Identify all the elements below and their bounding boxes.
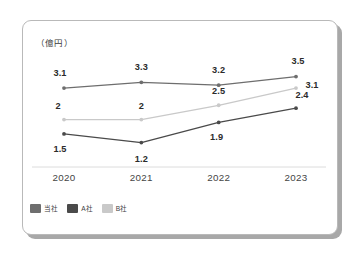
data-label-company-a: 1.5 bbox=[53, 144, 66, 154]
legend-swatch-icon bbox=[102, 204, 113, 213]
data-label-company-a: 1.2 bbox=[135, 154, 148, 164]
data-label-our-company: 3.5 bbox=[291, 56, 304, 66]
data-point bbox=[294, 75, 298, 79]
data-label-company-b: 2 bbox=[139, 101, 144, 111]
chart-screenshot: （億円） 3.13.33.23.51.51.21.92.4222.53.1 20… bbox=[0, 0, 359, 261]
data-label-company-b: 2 bbox=[55, 101, 60, 111]
data-point bbox=[62, 132, 66, 136]
legend-swatch-icon bbox=[30, 204, 41, 213]
data-label-company-a: 1.9 bbox=[210, 132, 223, 142]
data-point bbox=[139, 118, 143, 122]
x-tick-label: 2022 bbox=[207, 172, 230, 183]
legend-item-company-a[interactable]: A社 bbox=[67, 203, 93, 213]
series-line bbox=[64, 77, 296, 88]
data-label-company-a: 2.4 bbox=[295, 90, 308, 100]
series-line bbox=[64, 108, 296, 142]
data-label-our-company: 3.2 bbox=[212, 65, 225, 75]
legend-swatch-icon bbox=[67, 204, 78, 213]
data-point bbox=[62, 86, 66, 90]
chart-legend: 当社A社B社 bbox=[30, 203, 127, 213]
data-label-company-b: 3.1 bbox=[305, 80, 318, 90]
series-our-company bbox=[62, 75, 298, 90]
legend-label: A社 bbox=[81, 203, 93, 213]
data-label-our-company: 3.3 bbox=[135, 62, 148, 72]
legend-label: B社 bbox=[116, 203, 128, 213]
data-point bbox=[294, 106, 298, 110]
data-point bbox=[139, 141, 143, 145]
x-tick-label: 2020 bbox=[53, 172, 76, 183]
legend-item-company-b[interactable]: B社 bbox=[102, 203, 128, 213]
series-company-b bbox=[62, 86, 298, 121]
data-point bbox=[217, 103, 221, 107]
data-point bbox=[217, 121, 221, 125]
series-layer bbox=[62, 75, 298, 145]
x-tick-label: 2021 bbox=[130, 172, 153, 183]
data-point bbox=[62, 118, 66, 122]
data-label-company-b: 2.5 bbox=[212, 86, 225, 96]
x-tick-label: 2023 bbox=[285, 172, 308, 183]
legend-item-our-company[interactable]: 当社 bbox=[30, 203, 58, 213]
legend-label: 当社 bbox=[44, 203, 58, 213]
data-label-our-company: 3.1 bbox=[53, 68, 66, 78]
data-point bbox=[139, 80, 143, 84]
